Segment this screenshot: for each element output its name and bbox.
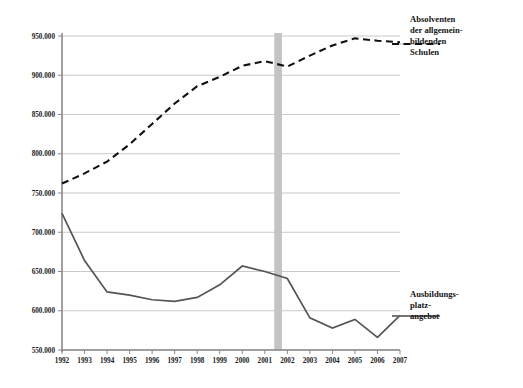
x-tick-label: 2000 (235, 357, 250, 365)
series-label-absolventen-line-2: der allgemein- (410, 25, 518, 36)
x-tick-label: 1992 (55, 357, 70, 365)
x-tick-label: 1996 (145, 357, 160, 365)
x-tick-label: 1995 (122, 357, 137, 365)
y-tick-label: 650.000 (32, 268, 56, 276)
y-axis-labels: 550.000600.000650.000700.000750.000800.0… (32, 33, 56, 355)
series-label-ausbildung-line-1: Ausbildungs- (410, 289, 518, 300)
gridlines-group (62, 36, 400, 350)
series-label-absolventen-line-4: Schulen (410, 47, 518, 58)
x-axis-labels: 1992199319941995199619971998199920002001… (55, 357, 408, 365)
y-tick-label: 800.000 (32, 150, 56, 158)
y-tick-label: 550.000 (32, 347, 56, 355)
x-tick-label: 1994 (100, 357, 115, 365)
series-label-ausbildung-line-3: angebot (410, 311, 518, 322)
x-tick-label: 2006 (370, 357, 385, 365)
data-series-group (62, 38, 400, 337)
y-tick-label: 950.000 (32, 33, 56, 41)
series-label-absolventen: Absolventen der allgemein- bildenden Sch… (410, 14, 518, 58)
series-label-ausbildung-line-2: platz- (410, 300, 518, 311)
x-tick-label: 1993 (77, 357, 92, 365)
y-tick-label: 600.000 (32, 307, 56, 315)
x-tick-label: 2001 (258, 357, 273, 365)
y-tick-label: 700.000 (32, 229, 56, 237)
chart-container: 550.000600.000650.000700.000750.000800.0… (0, 0, 523, 388)
legend-leader-lines (392, 44, 440, 316)
x-tick-label: 2003 (303, 357, 318, 365)
x-tick-label: 1997 (167, 357, 182, 365)
y-tick-label: 900.000 (32, 72, 56, 80)
series-label-ausbildung: Ausbildungs- platz- angebot (410, 289, 518, 322)
x-tick-label: 2005 (348, 357, 363, 365)
series-label-absolventen-line-3: bildenden (410, 36, 518, 47)
y-tick-label: 750.000 (32, 190, 56, 198)
x-tick-label: 2002 (280, 357, 295, 365)
x-tick-label: 1999 (213, 357, 228, 365)
series-label-absolventen-line-1: Absolventen (410, 14, 518, 25)
x-tick-label: 1998 (190, 357, 205, 365)
x-tick-label: 2004 (325, 357, 340, 365)
highlight-band-group (274, 33, 282, 350)
series-line-absolventen (62, 38, 400, 183)
line-chart-plot: 550.000600.000650.000700.000750.000800.0… (0, 0, 523, 388)
x-tick-label: 2007 (393, 357, 408, 365)
y-tick-label: 850.000 (32, 111, 56, 119)
highlight-band (274, 33, 282, 350)
